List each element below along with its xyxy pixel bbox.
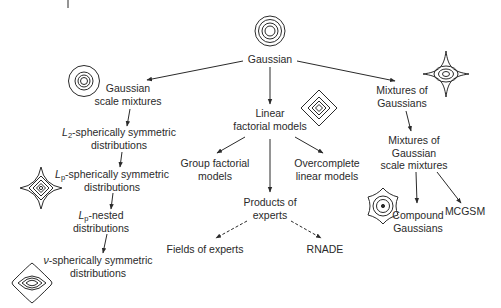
- node-label-line3: scale mixtures: [380, 159, 447, 172]
- node-label-rest: -nested: [88, 209, 123, 221]
- star-contours-icon: [421, 49, 471, 99]
- node-label-line1: Overcomplete: [294, 157, 359, 170]
- node-gaussian-scale-mixtures: Gaussian scale mixtures: [94, 82, 161, 107]
- node-label-line2: distributions: [62, 139, 176, 152]
- node-label-rest: -spherically symmetric: [65, 168, 169, 180]
- node-label-line2: distributions: [43, 267, 152, 280]
- concentric-circles-icon: [252, 13, 288, 49]
- node-l2-spherically-symmetric: L2-spherically symmetric distributions: [62, 126, 176, 151]
- edge-lpnested-nusym: [103, 234, 107, 253]
- edge-linear-group: [217, 137, 245, 153]
- node-nu-spherically-symmetric: ν-spherically symmetric distributions: [43, 254, 152, 279]
- node-mixtures-of-gaussians: Mixtures of Gaussians: [376, 84, 427, 109]
- edge-linear-overcomplete: [295, 137, 323, 153]
- node-lp-spherically-symmetric: Lp-spherically symmetric distributions: [55, 168, 169, 193]
- edge-poe-foe: [216, 221, 247, 238]
- node-label-line1: Group factorial: [181, 157, 250, 170]
- edge-mogsm-mcgsm: [437, 172, 461, 203]
- node-label-line1: Mixtures of: [380, 134, 447, 147]
- node-rnade: RNADE: [307, 243, 344, 256]
- edge-gaussian-mog: [297, 61, 395, 81]
- node-linear-factorial-models: Linear factorial models: [233, 107, 307, 132]
- node-label-rest: -spherically symmetric: [72, 126, 176, 138]
- node-mcgsm: MCGSM: [445, 205, 485, 218]
- node-label-line1: Products of: [243, 196, 296, 209]
- node-mixtures-of-gsm: Mixtures of Gaussian scale mixtures: [380, 134, 447, 172]
- node-overcomplete-linear-models: Overcomplete linear models: [294, 157, 359, 182]
- node-label-line2: distributions: [73, 222, 129, 235]
- node-label-line1: Compound: [392, 209, 443, 222]
- node-label: Fields of experts: [166, 243, 243, 255]
- node-label: Gaussian: [248, 53, 292, 65]
- node-lp-nested: Lp-nested distributions: [73, 209, 129, 234]
- node-label-line1: Linear: [233, 107, 307, 120]
- node-label-line2: linear models: [294, 170, 359, 183]
- node-compound-gaussians: Compound Gaussians: [392, 209, 443, 234]
- node-label-line2: factorial models: [233, 120, 307, 133]
- node-label-line2: Gaussian: [380, 147, 447, 160]
- node-label-line2: models: [181, 170, 250, 183]
- node-label-line2: distributions: [55, 181, 169, 194]
- node-label-line2: Gaussians: [392, 222, 443, 235]
- node-group-factorial-models: Group factorial models: [181, 157, 250, 182]
- node-label: MCGSM: [445, 205, 485, 217]
- edge-gaussian-gsm: [147, 61, 243, 80]
- node-label: RNADE: [307, 243, 344, 255]
- node-label-line2: scale mixtures: [94, 95, 161, 108]
- node-gaussian: Gaussian: [248, 53, 292, 66]
- diagram-canvas: Gaussian Gaussian scale mixtures L2-sphe…: [0, 0, 501, 308]
- edge-l2-lpsym: [120, 152, 122, 167]
- node-label-rest: -spherically symmetric: [49, 254, 153, 266]
- edge-mog-mogsm: [406, 111, 411, 131]
- edge-poe-rnade: [291, 221, 321, 238]
- node-label-line1: Gaussian: [94, 82, 161, 95]
- node-label-line1: Mixtures of: [376, 84, 427, 97]
- edge-lpsym-lpnested: [111, 193, 113, 209]
- edge-mogsm-compound: [416, 172, 417, 203]
- node-fields-of-experts: Fields of experts: [166, 243, 243, 256]
- node-label-line2: experts: [243, 209, 296, 222]
- node-label-line2: Gaussians: [376, 97, 427, 110]
- node-products-of-experts: Products of experts: [243, 196, 296, 221]
- edge-gsm-l2: [127, 109, 130, 126]
